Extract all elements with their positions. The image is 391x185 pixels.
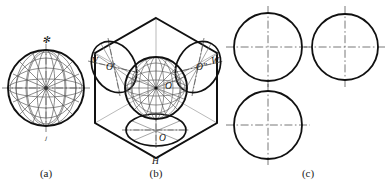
panel-b-side-ellipse-group: O″ <box>166 33 229 101</box>
figure-svg: ✻ ⱼ (a) <box>0 0 391 185</box>
panel-b-caption: (b) <box>150 167 163 180</box>
panel-c: (c) <box>226 6 386 180</box>
panel-c-top-view <box>226 84 310 166</box>
panel-b-sphere-label: O <box>165 81 172 91</box>
panel-b-sphere-center-point <box>154 86 157 89</box>
panel-b-plane-label-v: V <box>92 56 99 66</box>
panel-a-top-label: ✻ <box>42 35 51 45</box>
panel-c-front-view <box>226 6 310 88</box>
panel-a-bottom-label: ⱼ <box>44 132 48 142</box>
panel-c-side-view <box>304 6 386 88</box>
panel-c-caption: (c) <box>302 167 315 180</box>
panel-b-bottom-ellipse-label: O <box>159 133 166 143</box>
panel-b-front-ellipse-group: O' <box>82 33 145 101</box>
panel-a-caption: (a) <box>40 167 53 180</box>
panel-b-plane-label-h: H <box>151 156 160 166</box>
panel-b-front-ellipse-label: O' <box>106 62 116 72</box>
panel-b-plane-label-w: W <box>211 56 220 66</box>
panel-b: O' O″ <box>82 18 229 180</box>
panel-b-sphere-group: O <box>125 57 187 119</box>
technical-figure: ✻ ⱼ (a) <box>0 0 391 185</box>
panel-a: ✻ ⱼ (a) <box>2 35 90 180</box>
panel-b-side-ellipse-label: O″ <box>196 62 208 72</box>
